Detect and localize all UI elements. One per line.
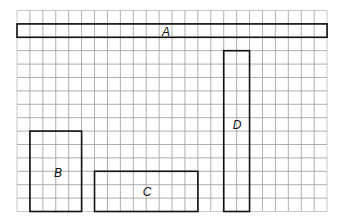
grid-diagram: A B C D	[0, 0, 344, 223]
rectangle-d-label: D	[233, 118, 242, 132]
rectangle-a-label: A	[161, 25, 170, 39]
rectangle-c-label: C	[143, 185, 152, 199]
grid-lines	[17, 11, 327, 212]
rectangle-b-label: B	[54, 166, 62, 180]
